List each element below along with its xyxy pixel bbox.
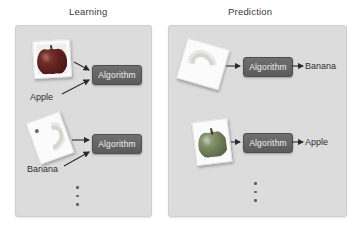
diagram-canvas: Learning Prediction Apple Algorithm Bana… <box>0 0 361 230</box>
panel-title-learning: Learning <box>69 6 108 17</box>
input-label-apple-learning: Apple <box>30 92 53 102</box>
algorithm-box-prediction-2: Algorithm <box>243 133 293 153</box>
panel-title-prediction: Prediction <box>228 6 272 17</box>
algorithm-box-learning-1: Algorithm <box>92 65 142 85</box>
output-label-banana: Banana <box>305 61 336 71</box>
input-label-banana-learning: Banana <box>27 164 58 174</box>
output-label-apple: Apple <box>305 137 328 147</box>
apple-photo-card-prediction <box>191 118 232 166</box>
banana-photo-icon <box>31 116 70 159</box>
banana-photo-icon <box>181 43 225 86</box>
algorithm-box-learning-2: Algorithm <box>92 134 142 154</box>
apple-photo-card-learning <box>32 39 72 79</box>
vertical-ellipsis-icon-learning <box>76 186 79 206</box>
apple-photo-icon <box>36 43 68 75</box>
algorithm-box-prediction-1: Algorithm <box>243 57 293 77</box>
apple-photo-icon <box>196 122 228 161</box>
vertical-ellipsis-icon-prediction <box>254 182 257 202</box>
